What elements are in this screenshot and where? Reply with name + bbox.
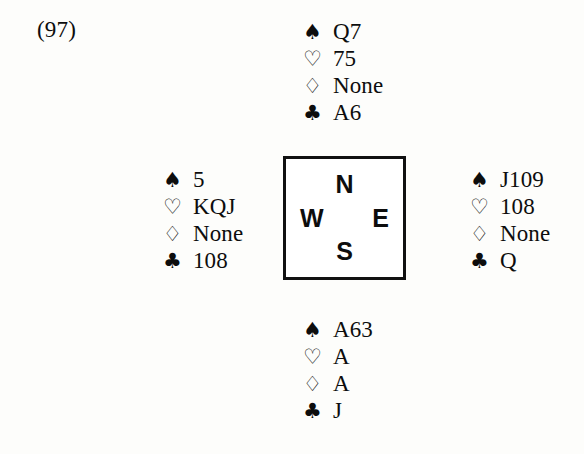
holding-hearts: KQJ bbox=[193, 193, 235, 220]
suit-row-diamonds: ♢None bbox=[470, 220, 550, 247]
holding-spades: J109 bbox=[500, 166, 544, 193]
compass-label-east: E bbox=[372, 206, 389, 231]
holding-clubs: J bbox=[333, 397, 342, 424]
hand-east: ♠J109♡108♢None♣Q bbox=[470, 166, 550, 274]
suit-row-spades: ♠J109 bbox=[470, 166, 550, 193]
clubs-icon: ♣ bbox=[470, 248, 500, 275]
compass-label-north: N bbox=[335, 172, 353, 197]
compass-label-west: W bbox=[300, 206, 324, 231]
clubs-icon: ♣ bbox=[303, 100, 333, 127]
diamonds-icon: ♢ bbox=[303, 73, 333, 100]
holding-diamonds: None bbox=[193, 220, 243, 247]
hearts-icon: ♡ bbox=[163, 194, 193, 221]
suit-row-hearts: ♡108 bbox=[470, 193, 550, 220]
suit-row-diamonds: ♢None bbox=[303, 72, 383, 99]
holding-diamonds: A bbox=[333, 370, 350, 397]
hand-west: ♠5♡KQJ♢None♣108 bbox=[163, 166, 243, 274]
holding-spades: Q7 bbox=[333, 18, 361, 45]
holding-clubs: Q bbox=[500, 247, 517, 274]
hand-north: ♠Q7♡75♢None♣A6 bbox=[303, 18, 383, 126]
clubs-icon: ♣ bbox=[303, 398, 333, 425]
clubs-icon: ♣ bbox=[163, 248, 193, 275]
suit-row-spades: ♠Q7 bbox=[303, 18, 383, 45]
hand-south: ♠A63♡A♢A♣J bbox=[303, 316, 373, 424]
hearts-icon: ♡ bbox=[303, 46, 333, 73]
suit-row-clubs: ♣108 bbox=[163, 247, 243, 274]
suit-row-hearts: ♡KQJ bbox=[163, 193, 243, 220]
hearts-icon: ♡ bbox=[303, 344, 333, 371]
suit-row-clubs: ♣A6 bbox=[303, 99, 383, 126]
suit-row-spades: ♠5 bbox=[163, 166, 243, 193]
spades-icon: ♠ bbox=[470, 167, 500, 194]
spades-icon: ♠ bbox=[163, 167, 193, 194]
compass-box: N W E S bbox=[283, 156, 406, 280]
suit-row-spades: ♠A63 bbox=[303, 316, 373, 343]
compass-label-south: S bbox=[336, 239, 353, 264]
spades-icon: ♠ bbox=[303, 317, 333, 344]
holding-spades: A63 bbox=[333, 316, 373, 343]
suit-row-clubs: ♣Q bbox=[470, 247, 550, 274]
holding-hearts: 75 bbox=[333, 45, 356, 72]
holding-clubs: A6 bbox=[333, 99, 361, 126]
holding-hearts: 108 bbox=[500, 193, 535, 220]
suit-row-diamonds: ♢None bbox=[163, 220, 243, 247]
holding-spades: 5 bbox=[193, 166, 205, 193]
deal-number-label: (97) bbox=[37, 17, 76, 43]
holding-diamonds: None bbox=[333, 72, 383, 99]
hearts-icon: ♡ bbox=[470, 194, 500, 221]
spades-icon: ♠ bbox=[303, 19, 333, 46]
suit-row-clubs: ♣J bbox=[303, 397, 373, 424]
diamonds-icon: ♢ bbox=[470, 221, 500, 248]
suit-row-diamonds: ♢A bbox=[303, 370, 373, 397]
suit-row-hearts: ♡A bbox=[303, 343, 373, 370]
bridge-deal-diagram: (97) ♠Q7♡75♢None♣A6 ♠5♡KQJ♢None♣108 ♠J10… bbox=[0, 0, 584, 454]
holding-clubs: 108 bbox=[193, 247, 228, 274]
holding-hearts: A bbox=[333, 343, 350, 370]
holding-diamonds: None bbox=[500, 220, 550, 247]
diamonds-icon: ♢ bbox=[303, 371, 333, 398]
suit-row-hearts: ♡75 bbox=[303, 45, 383, 72]
diamonds-icon: ♢ bbox=[163, 221, 193, 248]
